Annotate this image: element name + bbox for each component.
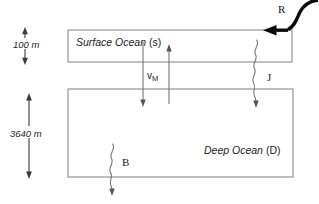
particle-flux-label: J	[267, 72, 271, 83]
mixing-flux-subscript: M	[152, 74, 158, 83]
particle-flux-wavy-arrow	[253, 40, 259, 108]
surface-depth-label: 100 m	[13, 40, 39, 50]
diagram-canvas	[0, 0, 319, 204]
surface-ocean-symbol: (s)	[149, 36, 161, 48]
burial-flux-wavy-arrow	[109, 144, 114, 196]
deep-depth-label: 3640 m	[10, 129, 42, 139]
mixing-flux-up-arrow	[166, 44, 171, 104]
deep-ocean-label: Deep Ocean (D)	[204, 145, 280, 156]
deep-ocean-box	[68, 89, 293, 177]
deep-ocean-name: Deep Ocean	[204, 144, 263, 156]
burial-flux-label: B	[122, 157, 129, 168]
mixing-flux-down-arrow	[140, 42, 145, 107]
surface-ocean-name: Surface Ocean	[76, 36, 146, 48]
ocean-box-model-diagram: Surface Ocean (s) Deep Ocean (D) 100 m 3…	[0, 0, 319, 204]
mixing-flux-label: vM	[147, 71, 158, 82]
recharge-flux-label: R	[278, 4, 285, 15]
surface-ocean-label: Surface Ocean (s)	[76, 37, 161, 48]
deep-ocean-symbol: (D)	[266, 144, 281, 156]
